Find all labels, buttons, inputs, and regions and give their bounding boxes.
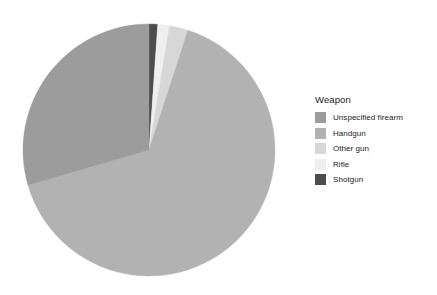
legend-swatch [315,159,326,170]
pie-slice-group [23,24,275,276]
legend-item-label: Handgun [333,128,366,139]
chart-legend: Weapon Unspecified firearmHandgunOther g… [315,94,433,185]
legend-item[interactable]: Other gun [315,143,433,154]
legend-item[interactable]: Handgun [315,128,433,139]
legend-item-label: Unspecified firearm [333,112,403,123]
legend-item[interactable]: Rifle [315,159,433,170]
legend-item[interactable]: Unspecified firearm [315,112,433,123]
legend-item-label: Other gun [333,143,369,154]
legend-item[interactable]: Shotgun [315,174,433,185]
legend-swatch [315,174,326,185]
legend-swatch [315,112,326,123]
legend-swatch [315,143,326,154]
pie-chart-figure: Weapon Unspecified firearmHandgunOther g… [0,0,437,295]
legend-swatch [315,128,326,139]
legend-title: Weapon [315,94,433,106]
pie-chart-svg [0,0,300,295]
legend-item-list: Unspecified firearmHandgunOther gunRifle… [315,112,433,185]
legend-item-label: Shotgun [333,174,363,185]
legend-item-label: Rifle [333,159,349,170]
pie-chart-plot-area [0,0,300,295]
